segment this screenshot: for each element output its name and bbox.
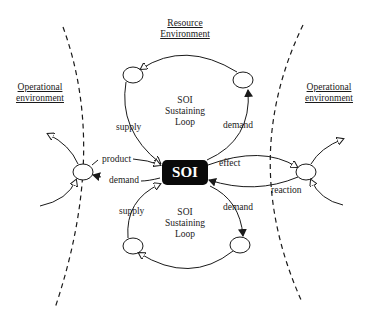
op-env-left-label: Operational environment (14, 82, 66, 104)
left-op-node (73, 164, 93, 180)
label-bottom-demand: demand (223, 202, 253, 213)
label-reaction: reaction (271, 185, 302, 196)
label-bottom-supply: supply (119, 206, 144, 217)
top-loop-label: SOI Sustaining Loop (160, 95, 210, 128)
op-left-line1: Operational (14, 82, 66, 93)
right-op-node (296, 164, 316, 180)
resource-env-label: Resource Environment (160, 18, 210, 40)
top-right-node (233, 72, 253, 88)
label-effect: effect (219, 158, 240, 169)
bottom-loop-line3: Loop (160, 229, 210, 240)
op-env-right-label: Operational environment (303, 82, 355, 104)
bottom-loop-line1: SOI (160, 207, 210, 218)
bottom-loop-line2: Sustaining (160, 218, 210, 229)
top-loop-line1: SOI (160, 95, 210, 106)
soi-node: SOI (162, 160, 208, 185)
top-left-node (123, 67, 143, 83)
label-left-demand: demand (109, 175, 139, 186)
bottom-loop-label: SOI Sustaining Loop (160, 207, 210, 240)
label-top-demand: demand (223, 120, 253, 131)
op-left-line2: environment (14, 93, 66, 104)
right-boundary (270, 25, 303, 302)
label-top-supply: supply (116, 122, 141, 133)
bottom-left-node (123, 238, 143, 254)
top-loop-line2: Sustaining (160, 106, 210, 117)
resource-label-line2: Environment (160, 29, 210, 40)
resource-label-line1: Resource (160, 18, 210, 29)
label-product: product (102, 154, 131, 165)
bottom-right-node (230, 237, 250, 253)
op-right-line2: environment (303, 93, 355, 104)
top-loop-line3: Loop (160, 117, 210, 128)
op-right-line1: Operational (303, 82, 355, 93)
